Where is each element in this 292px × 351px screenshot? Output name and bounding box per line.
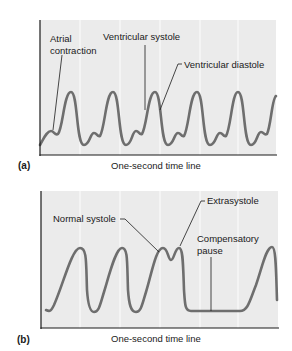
cardiac-cycle-diagram: Atrial contraction Ventricular systole V… — [0, 0, 292, 351]
panel-b-label: (b) — [17, 334, 30, 345]
panel-a-x-axis-label: One-second time line — [111, 160, 201, 171]
normal-systole-label: Normal systole — [53, 213, 116, 224]
ventricular-systole-label: Ventricular systole — [103, 31, 180, 42]
panel-b: Normal systole Extrasystole Compensatory… — [17, 191, 279, 345]
atrial-contraction-label-line2: contraction — [50, 45, 96, 56]
compensatory-pause-label-line1: Compensatory — [197, 233, 259, 244]
atrial-contraction-label-line1: Atrial — [50, 33, 72, 44]
ventricular-diastole-label: Ventricular diastole — [184, 59, 264, 70]
extrasystole-label: Extrasystole — [207, 195, 259, 206]
panel-a: Atrial contraction Ventricular systole V… — [18, 20, 277, 171]
panel-b-x-axis-label: One-second time line — [111, 333, 201, 344]
panel-a-label: (a) — [18, 160, 30, 171]
compensatory-pause-label-line2: pause — [197, 245, 223, 256]
